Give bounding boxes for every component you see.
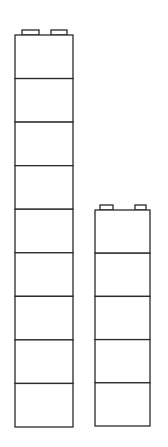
stud-2 [51,30,67,35]
stud-2 [135,205,146,210]
short-tower [95,205,150,426]
stud-1 [100,205,113,210]
block-1 [15,35,73,79]
block-8 [15,340,73,384]
block-4 [95,340,150,383]
block-9 [15,383,73,427]
block-3 [95,296,150,339]
block-5 [95,383,150,426]
block-5 [15,209,73,253]
tall-tower [15,30,73,427]
block-1 [95,210,150,253]
block-2 [15,79,73,123]
block-6 [15,253,73,297]
block-4 [15,166,73,210]
block-towers-diagram [0,0,168,447]
stud-1 [22,30,39,35]
block-7 [15,296,73,340]
block-2 [95,253,150,296]
block-3 [15,122,73,166]
